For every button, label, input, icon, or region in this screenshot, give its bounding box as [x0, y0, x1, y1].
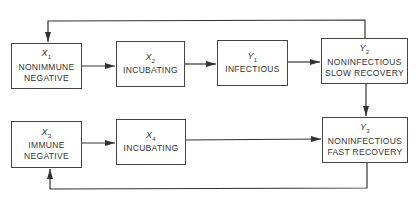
arrow-y3-x3 — [50, 163, 367, 189]
state-y1-infectious: Y1 INFECTIOUS — [217, 40, 288, 86]
state-x3-immune-negative: X3 IMMUNE NEGATIVE — [11, 121, 82, 168]
state-x1-nonimmune-negative: X1 NONIMMUNE NEGATIVE — [11, 43, 82, 89]
state-label: NONINFECTIOUS — [327, 57, 401, 68]
state-label: IMMUNE — [28, 140, 64, 151]
state-y3-noninfectious-fast: Y3 NONINFECTIOUS FAST RECOVERY — [322, 117, 408, 163]
state-symbol: Y2 — [360, 43, 370, 57]
state-label: INFECTIOUS — [225, 64, 279, 75]
state-symbol: Y3 — [360, 122, 370, 136]
state-y2-noninfectious-slow: Y2 NONINFECTIOUS SLOW RECOVERY — [321, 38, 408, 84]
connector-lines — [0, 0, 418, 201]
state-label: NONIMMUNE — [18, 62, 74, 73]
state-label: INCUBATING — [123, 65, 178, 76]
state-symbol: Y1 — [248, 51, 258, 65]
state-x4-incubating: X4 INCUBATING — [116, 119, 186, 165]
state-label: NEGATIVE — [24, 151, 69, 162]
state-symbol: X4 — [146, 130, 156, 144]
state-symbol: X2 — [146, 52, 156, 66]
arrow-y2-x1 — [48, 20, 365, 42]
state-x2-incubating: X2 INCUBATING — [116, 41, 185, 87]
state-label: NONINFECTIOUS — [328, 136, 402, 147]
state-label: INCUBATING — [124, 143, 179, 154]
state-label: NEGATIVE — [24, 73, 69, 84]
state-symbol: X3 — [42, 127, 52, 141]
state-label: SLOW RECOVERY — [325, 68, 404, 79]
state-label: FAST RECOVERY — [328, 147, 403, 158]
state-symbol: X1 — [42, 48, 52, 62]
arrow-x4-y3 — [186, 139, 321, 140]
